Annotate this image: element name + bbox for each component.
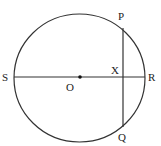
label-R: R <box>148 71 156 83</box>
label-Q: Q <box>118 131 126 143</box>
label-S: S <box>2 71 8 83</box>
label-P: P <box>118 10 124 22</box>
label-X: X <box>111 64 119 76</box>
center-point-O <box>78 75 82 79</box>
geometry-diagram: P Q R S O X <box>0 0 161 146</box>
label-O: O <box>66 81 74 93</box>
